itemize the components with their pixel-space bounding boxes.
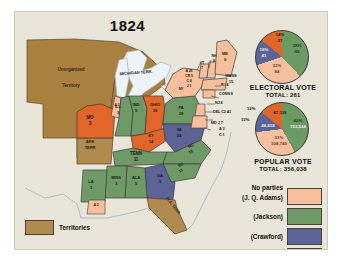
legend-header: No parties (215, 184, 283, 191)
callout-rhode-island: R.I 4 (221, 84, 229, 88)
label-votes-missouri: 3 (77, 122, 103, 127)
label-state-mississippi: MISS (105, 176, 127, 180)
label-votes-illinois: 3 (109, 111, 127, 115)
popular-slice-jackson-value: 153,544 (283, 125, 313, 130)
label-louisiana-adams-split: A 2 (89, 204, 103, 208)
label-state-louisiana: LA (81, 180, 101, 184)
label-votes-virginia: 24 (169, 134, 189, 138)
popular-slice-crawford-value: 46,618 (255, 124, 281, 129)
electoral-slice-clay-pct: 14% (271, 33, 289, 38)
callout-connecticut: CONN 8 (219, 93, 233, 97)
state-new-jersey (195, 104, 205, 116)
label-state-alabama: ALA (125, 176, 147, 180)
legend-label-adams: (J. Q. Adams) (211, 194, 283, 201)
label-new-york-jackson: J 1 (181, 85, 197, 89)
legend-label-crawford: (Crawford) (211, 233, 283, 240)
label-votes-mississippi: 3 (105, 182, 127, 186)
label-state-maine: ME (217, 52, 233, 56)
label-arkansas-territory-line1: ARK (75, 140, 105, 144)
electoral-slice-clay-value: 37 (271, 39, 289, 44)
state-delaware-maryland (191, 116, 207, 128)
label-illinois-adams-split: A 1 (111, 104, 123, 108)
legend-swatch-clay (287, 248, 322, 250)
callout-new-jersey: NJ 8 (215, 102, 223, 106)
electoral-slice-crawford-value: 41 (255, 54, 273, 59)
label-unorganized-territory-line2: Territory (41, 84, 101, 89)
popular-vote-title: POPULAR VOTE (243, 158, 323, 165)
popular-slice-clay-value: 47,136 (267, 111, 293, 116)
electoral-map-figure: 1824 (0, 0, 340, 259)
label-state-pennsylvania: PA (171, 106, 191, 110)
label-votes-kentucky: 14 (141, 140, 161, 144)
electoral-slice-crawford-pct: 16% (255, 48, 273, 53)
electoral-slice-adams-value: 84 (267, 70, 287, 75)
callout-delaware: DEL C2 A1 (213, 111, 231, 115)
callout-maryland-adams: A 3 (219, 128, 224, 132)
label-votes-maine: 9 (217, 58, 233, 62)
label-votes-georgia: 9 (149, 180, 171, 184)
label-state-ohio: OHIO (143, 103, 167, 107)
callout-maryland-clay: C 1 (219, 134, 225, 138)
legend-label-territories: Territories (59, 224, 90, 231)
legend-label-jackson: (Jackson) (211, 213, 283, 220)
legend-swatch-adams (287, 188, 322, 205)
label-votes-tennessee: 11 (121, 158, 151, 163)
label-state-missouri: MO (77, 116, 103, 121)
label-state-tennessee: TENN (121, 152, 151, 157)
label-state-massachusetts: MASS (219, 74, 243, 78)
label-state-virginia: VA (169, 128, 189, 132)
electoral-slice-jackson-value: 99 (287, 50, 307, 55)
popular-slice-clay-pct: 12% (247, 106, 255, 111)
electoral-vote-total: TOTAL: 261 (243, 92, 323, 98)
label-votes-vermont: 7 (195, 67, 209, 71)
popular-slice-crawford-pct: 13% (241, 117, 249, 122)
label-votes-louisiana: 3 (81, 186, 101, 190)
label-unorganized-territory-line1: Unorganized (41, 68, 101, 73)
label-state-georgia: GA (149, 174, 171, 178)
popular-slice-adams-pct: 31% (267, 136, 291, 141)
popular-slice-adams-value: 108,740 (263, 142, 295, 147)
label-votes-alabama: 5 (125, 182, 147, 186)
label-arkansas-territory-line2: TERR (75, 146, 105, 150)
label-votes-ohio: 16 (143, 109, 167, 113)
label-state-kentucky: KY (141, 134, 161, 138)
callout-maryland-jackson: MD J 7 (211, 122, 223, 126)
popular-vote-total: TOTAL: 356,038 (243, 166, 323, 172)
legend-swatch-jackson (287, 208, 322, 225)
map-plate: 1824 (14, 11, 328, 250)
label-votes-pennsylvania: 28 (171, 112, 191, 116)
popular-slice-jackson-pct: 42% (287, 119, 309, 124)
legend-swatch-territories (25, 220, 54, 235)
legend-swatch-crawford (287, 228, 322, 245)
electoral-slice-adams-pct: 32% (267, 64, 287, 69)
electoral-vote-title: ELECTORAL VOTE (243, 84, 323, 91)
electoral-slice-jackson-pct: 38% (287, 44, 307, 49)
